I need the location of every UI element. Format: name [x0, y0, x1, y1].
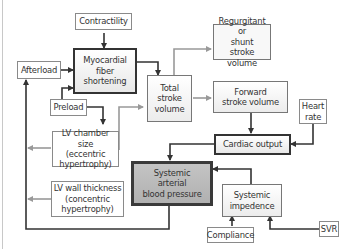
node-total-stroke-volume: Total stroke volume — [147, 75, 192, 122]
node-heart-rate: Heart rate — [299, 99, 327, 124]
node-contractility: Contractility — [75, 13, 132, 30]
node-cardiac-output: Cardiac output — [214, 134, 291, 155]
node-compliance: Compliance — [207, 227, 254, 243]
node-myocardial-fiber-shortening: Myocardial fiber shortening — [73, 48, 137, 94]
node-lv-chamber-size: LV chamber size (eccentric hypertrophy) — [52, 131, 119, 167]
node-preload: Preload — [50, 99, 87, 116]
node-systemic-impedence: Systemic impedence — [222, 184, 282, 217]
node-forward-stroke-volume: Forward stroke volume — [213, 81, 288, 113]
node-systemic-arterial-blood-pressure: Systemic arterial blood pressure — [131, 161, 213, 206]
node-afterload: Afterload — [17, 61, 61, 79]
node-regurgitant-stroke-volume: Regurgitant or shunt stroke volume — [213, 24, 271, 60]
node-svr: SVR — [319, 221, 339, 237]
node-lv-wall-thickness: LV wall thickness (concentric hypertroph… — [51, 181, 124, 217]
